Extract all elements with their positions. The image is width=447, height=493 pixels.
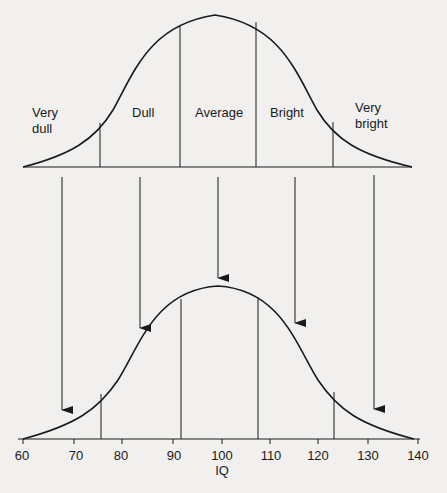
tick-label-80: 80 [114,448,128,463]
top-bell-curve [23,15,412,167]
iq-distribution-diagram: Very dull Dull Average Bright Very brigh… [0,0,447,493]
bottom-bell-curve [23,286,414,439]
bottom-distribution: 60 70 80 90 100 110 120 130 140 IQ [15,286,429,478]
x-axis-ticks [23,439,418,444]
mapping-arrows [62,175,374,410]
x-axis-tick-labels: 60 70 80 90 100 110 120 130 140 [15,448,429,463]
tick-label-110: 110 [261,448,282,463]
tick-label-120: 120 [307,448,329,463]
category-very-bright: Very bright [355,100,388,131]
category-dull: Dull [132,105,155,120]
tick-label-100: 100 [211,448,233,463]
tick-label-140: 140 [407,448,429,463]
category-average: Average [195,105,243,120]
tick-label-130: 130 [357,448,379,463]
tick-label-90: 90 [167,448,181,463]
x-axis-label: IQ [215,463,229,478]
category-bright: Bright [270,105,304,120]
tick-label-70: 70 [69,448,83,463]
category-very-dull: Very dull [32,105,62,136]
top-distribution: Very dull Dull Average Bright Very brigh… [23,15,412,167]
tick-label-60: 60 [15,448,29,463]
